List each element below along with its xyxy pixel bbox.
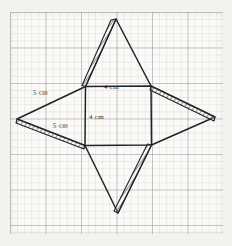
bottom-triangle-hatched-tab [114, 144, 152, 213]
label-middle-height: 4 cm [89, 113, 104, 121]
top-triangle [86, 19, 152, 87]
label-lower-left-slant: 5 cm [53, 121, 68, 130]
label-left-slant: 5 cm [33, 88, 48, 97]
label-top-edge: 4 cm [104, 83, 119, 91]
left-triangle-hatched-tab [16, 119, 85, 149]
top-triangle-hatched-tab [82, 19, 116, 87]
screenshot-canvas: 4 cm 4 cm 5 cm 5 cm [0, 0, 232, 246]
pyramid-net-drawing [0, 0, 232, 246]
right-triangle-hatched-tab [150, 86, 215, 121]
